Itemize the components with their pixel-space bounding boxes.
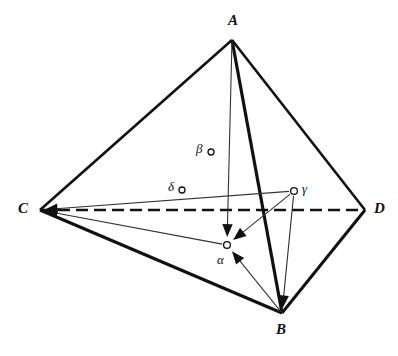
vertex-label-B: B bbox=[276, 322, 286, 337]
point-label-gamma: γ bbox=[302, 182, 307, 195]
point-marker-gamma bbox=[291, 188, 298, 195]
edges-group bbox=[40, 40, 365, 313]
edge-AD bbox=[232, 40, 365, 210]
point-label-delta: δ bbox=[168, 180, 174, 193]
point-label-alpha: α bbox=[217, 253, 224, 266]
edge-AB bbox=[232, 40, 282, 313]
edge-AC bbox=[40, 40, 232, 210]
vertex-label-C: C bbox=[18, 201, 28, 216]
point-label-beta: β bbox=[196, 142, 202, 155]
tetrahedron-svg bbox=[0, 0, 398, 356]
edge-DB bbox=[282, 210, 365, 313]
vertex-label-D: D bbox=[374, 201, 385, 216]
edge-CB bbox=[40, 210, 282, 313]
tetrahedron-figure: ABCDαβγδ bbox=[0, 0, 398, 356]
arrow-alpha-C bbox=[44, 208, 222, 244]
point-marker-alpha bbox=[224, 242, 231, 249]
point-marker-delta bbox=[179, 187, 185, 193]
vertex-label-A: A bbox=[228, 13, 238, 28]
point-marker-beta bbox=[208, 149, 214, 155]
arrow-gamma-B bbox=[279, 196, 294, 309]
arrow-A-alpha bbox=[222, 41, 232, 237]
